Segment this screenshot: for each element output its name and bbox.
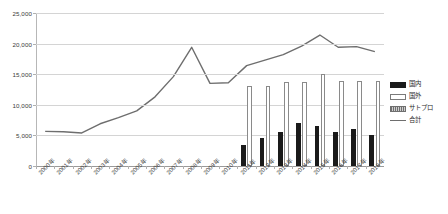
legend-swatch-icon: [390, 118, 406, 124]
legend-swatch-icon: [390, 106, 406, 112]
y-axis-tick: [33, 74, 36, 75]
bar-domestic: [351, 129, 356, 166]
legend-item-label: サトプロ: [409, 105, 433, 111]
bar-overseas: [376, 81, 381, 166]
y-axis-tick: [33, 44, 36, 45]
gridline: [36, 13, 384, 14]
bar-overseas: [266, 86, 271, 166]
legend-item-label: 合計: [409, 117, 421, 123]
legend-item[interactable]: 国外: [390, 91, 448, 102]
legend-item[interactable]: 合計: [390, 115, 448, 126]
plot-area: 05,00010,00015,00020,00025,000: [36, 13, 384, 166]
y-axis-tick-label: 25,000: [12, 10, 32, 17]
y-axis-tick: [33, 135, 36, 136]
bar-overseas: [302, 82, 307, 166]
y-axis-tick-label: 0: [28, 163, 32, 170]
bar-overseas: [357, 81, 362, 166]
y-axis-tick: [33, 13, 36, 14]
bar-domestic: [296, 123, 301, 166]
legend-swatch-icon: [390, 94, 406, 100]
gridline: [36, 135, 384, 136]
y-axis-tick-label: 20,000: [12, 40, 32, 47]
bar-overseas: [284, 82, 289, 166]
y-axis-tick: [33, 105, 36, 106]
bar-overseas: [339, 81, 344, 166]
legend-item[interactable]: 国内: [390, 79, 448, 90]
y-axis-tick-label: 5,000: [16, 132, 32, 139]
bar-domestic: [315, 126, 320, 166]
y-axis-tick-label: 15,000: [12, 71, 32, 78]
bar-overseas: [247, 86, 252, 166]
legend-item-label: 国外: [409, 93, 421, 99]
gridline: [36, 74, 384, 75]
chart-legend: 国内国外サトプロ合計: [390, 79, 448, 127]
gridline: [36, 44, 384, 45]
legend-item[interactable]: サトプロ: [390, 103, 448, 114]
legend-swatch-icon: [390, 82, 406, 88]
legend-item-label: 国内: [409, 81, 421, 87]
y-axis-tick-label: 10,000: [12, 101, 32, 108]
total-line-path: [45, 35, 375, 133]
total-line-series: [36, 13, 384, 166]
bar-overseas: [321, 74, 326, 166]
chart-container: 05,00010,00015,00020,00025,000 国内国外サトプロ合…: [0, 0, 448, 214]
gridline: [36, 105, 384, 106]
